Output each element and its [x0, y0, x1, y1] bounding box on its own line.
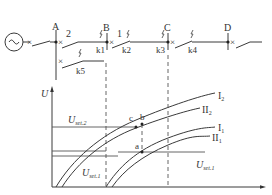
bus-d-label: D — [224, 22, 231, 33]
line2-label: 2 — [66, 28, 71, 39]
fault-k5-icon — [79, 49, 81, 57]
svg-text:×: × — [58, 37, 63, 47]
network-schematic: × A × 2 k1 B × 1 k2 k3 C × — [5, 21, 262, 80]
u-set1-left-label: Uset.1 — [82, 167, 100, 179]
bus-a-label: A — [52, 21, 60, 32]
voltage-chart: U Uset.2 I2 II2 I1 II1 b c a Uset.1 Uset… — [41, 55, 266, 189]
protection-diagram: × A × 2 k1 B × 1 k2 k3 C × — [0, 0, 272, 195]
point-a-label: a — [135, 141, 139, 151]
svg-text:×: × — [109, 37, 114, 47]
fault-k2-label: k2 — [122, 45, 131, 55]
y-axis-label: U — [41, 88, 49, 99]
curve-I1-label: I1 — [218, 122, 224, 134]
point-c-label: c — [129, 113, 133, 123]
point-a — [141, 151, 144, 154]
sine-wave-icon — [9, 40, 19, 44]
u-set2-label: Uset.2 — [68, 114, 86, 126]
curve-I2 — [56, 93, 215, 187]
curve-I2-label: I2 — [218, 90, 224, 102]
curve-II2-label: II2 — [202, 104, 212, 116]
svg-text:×: × — [170, 37, 175, 47]
point-c — [135, 126, 138, 129]
breaker-d — [236, 42, 250, 48]
fault-k2-icon — [127, 30, 129, 38]
line1-label: 1 — [117, 28, 122, 39]
breaker-gen — [32, 41, 50, 46]
breaker-line2 — [62, 42, 78, 48]
fault-k3-label: k3 — [156, 45, 166, 55]
point-b-label: b — [140, 112, 145, 122]
fault-k1-label: k1 — [96, 45, 105, 55]
x-axis-arrow-icon — [260, 185, 266, 189]
bus-c-label: C — [164, 22, 171, 33]
svg-text:×: × — [58, 56, 63, 66]
y-axis-arrow-icon — [50, 86, 54, 92]
breaker-x-mark: × — [27, 37, 32, 47]
fault-k4-label: k4 — [188, 45, 198, 55]
svg-text:×: × — [230, 37, 235, 47]
fault-k4-icon — [191, 30, 193, 38]
point-b — [141, 123, 144, 126]
u-set1-right-label: Uset.1 — [196, 159, 214, 171]
bus-b-label: B — [103, 22, 110, 33]
fault-k5-label: k5 — [76, 66, 86, 76]
fault-k1-icon — [100, 30, 102, 38]
curve-II1-label: II1 — [212, 132, 222, 144]
